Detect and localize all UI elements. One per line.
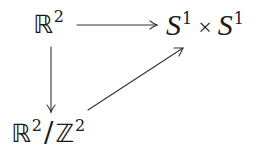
arrow-r2-to-s1xs1 [77,21,157,29]
arrow-r2-mod-z2-to-s1xs1 [88,48,183,110]
arrows-layer [0,0,273,159]
arrow-r2-to-r2-mod-z2 [47,47,55,112]
